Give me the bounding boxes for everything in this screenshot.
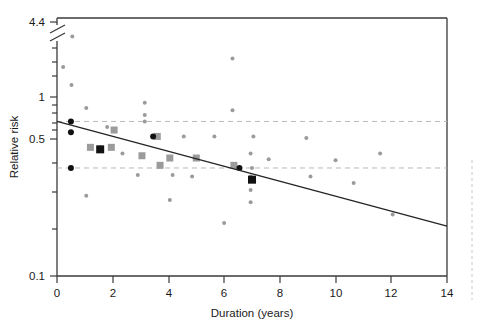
y-tick-label-4-4: 4.4 <box>29 16 46 28</box>
x-axis-ticks <box>57 276 447 283</box>
data-point-small-gray-dot <box>249 200 253 204</box>
data-point-gray-square <box>108 144 115 151</box>
data-point-black-square <box>96 145 104 153</box>
axis-frame <box>57 18 447 276</box>
data-point-black-circle <box>68 129 74 135</box>
x-axis-title: Duration (years) <box>211 307 294 319</box>
x-tick-label-10: 10 <box>330 287 343 299</box>
y-tick-label-0-1: 0.1 <box>29 270 45 282</box>
data-point-small-gray-dot <box>352 181 356 185</box>
data-point-gray-square <box>157 162 164 169</box>
y-tick-label-0-5: 0.5 <box>29 133 45 145</box>
series-black-circle <box>68 118 243 171</box>
data-point-small-gray-dot <box>251 134 255 138</box>
relative-risk-scatter-figure: 4.4 1 0.5 0.1 0 2 4 6 8 10 12 14 Duratio… <box>0 0 482 332</box>
series-gray-square <box>87 127 237 169</box>
x-tick-label-14: 14 <box>441 287 454 299</box>
y-axis-break-icon <box>50 25 65 41</box>
data-point-gray-square <box>87 144 94 151</box>
data-point-black-circle <box>68 118 74 124</box>
data-point-small-gray-dot <box>143 113 147 117</box>
data-point-small-gray-dot <box>190 175 194 179</box>
data-point-gray-square <box>111 127 118 134</box>
data-point-small-gray-dot <box>222 221 226 225</box>
y-axis-major-ticks <box>50 22 57 276</box>
data-point-small-gray-dot <box>250 166 254 170</box>
x-tick-label-2: 2 <box>110 287 116 299</box>
x-tick-label-6: 6 <box>221 287 227 299</box>
data-point-small-gray-dot <box>105 125 109 129</box>
data-point-small-gray-dot <box>168 198 172 202</box>
data-point-small-gray-dot <box>304 136 308 140</box>
data-point-small-gray-dot <box>171 173 175 177</box>
x-tick-label-4: 4 <box>166 287 173 299</box>
data-point-small-gray-dot <box>84 194 88 198</box>
data-point-small-gray-dot <box>267 157 271 161</box>
data-point-black-square <box>248 176 256 184</box>
data-point-gray-square <box>138 152 145 159</box>
data-point-gray-square <box>166 155 173 162</box>
data-point-small-gray-dot <box>136 173 140 177</box>
data-point-small-gray-dot <box>70 34 74 38</box>
data-point-small-gray-dot <box>378 152 382 156</box>
data-point-small-gray-dot <box>143 101 147 105</box>
data-point-layer <box>61 34 395 225</box>
data-point-black-circle <box>68 165 74 171</box>
data-point-small-gray-dot <box>182 134 186 138</box>
data-point-black-circle <box>150 133 156 139</box>
data-point-small-gray-dot <box>334 158 338 162</box>
data-point-small-gray-dot <box>212 134 216 138</box>
data-point-small-gray-dot <box>84 106 88 110</box>
y-axis-title: Relative risk <box>8 115 20 178</box>
data-point-small-gray-dot <box>143 119 147 123</box>
data-point-small-gray-dot <box>391 212 395 216</box>
x-tick-label-0: 0 <box>54 287 60 299</box>
data-point-small-gray-dot <box>61 65 65 69</box>
data-point-small-gray-dot <box>249 188 253 192</box>
data-point-small-gray-dot <box>120 152 124 156</box>
data-point-small-gray-dot <box>231 57 235 61</box>
data-point-small-gray-dot <box>69 83 73 87</box>
y-tick-label-1: 1 <box>39 91 45 103</box>
data-point-small-gray-dot <box>309 175 313 179</box>
x-tick-label-8: 8 <box>277 287 283 299</box>
chart-canvas: 4.4 1 0.5 0.1 0 2 4 6 8 10 12 14 Duratio… <box>0 0 482 332</box>
x-tick-label-12: 12 <box>385 287 398 299</box>
data-point-small-gray-dot <box>231 108 235 112</box>
data-point-small-gray-dot <box>249 152 253 156</box>
